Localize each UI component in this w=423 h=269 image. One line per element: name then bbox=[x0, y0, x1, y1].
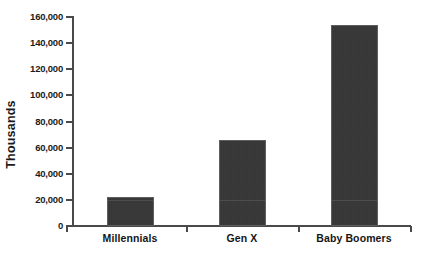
x-axis-label-millennials: Millennials bbox=[74, 232, 186, 244]
y-axis-tick-label-text: 80,000 bbox=[1, 116, 63, 127]
y-axis-tick-label-text: 160,000 bbox=[1, 11, 63, 22]
x-axis-tick bbox=[410, 226, 412, 232]
bar-baby-boomers bbox=[331, 25, 378, 226]
y-axis-tick bbox=[66, 94, 73, 96]
y-axis-tick-label: 80,000 bbox=[0, 116, 63, 128]
bar-millennials bbox=[107, 197, 154, 226]
y-axis-tick-label: 160,000 bbox=[0, 11, 63, 23]
y-axis-tick-label-text: 0 bbox=[1, 220, 63, 231]
x-axis-tick bbox=[66, 226, 68, 232]
y-axis-tick-label-text: 40,000 bbox=[1, 168, 63, 179]
y-axis-tick bbox=[66, 199, 73, 201]
y-axis-tick bbox=[66, 147, 73, 149]
y-axis-tick-label: 120,000 bbox=[0, 63, 63, 75]
y-axis-tick-label: 0 bbox=[0, 220, 63, 232]
y-axis-tick-label-text: 20,000 bbox=[1, 194, 63, 205]
y-axis-tick-label: 60,000 bbox=[0, 142, 63, 154]
x-axis-label-baby-boomers: Baby Boomers bbox=[298, 232, 410, 244]
y-axis-tick bbox=[66, 16, 73, 18]
y-axis-tick-label-text: 120,000 bbox=[1, 63, 63, 74]
y-axis-tick bbox=[66, 173, 73, 175]
y-axis-tick-label: 20,000 bbox=[0, 194, 63, 206]
y-axis-tick-label-text: 60,000 bbox=[1, 142, 63, 153]
y-axis-tick-label: 100,000 bbox=[0, 89, 63, 101]
y-axis-tick-label: 140,000 bbox=[0, 37, 63, 49]
x-axis-label-gen-x: Gen X bbox=[186, 232, 298, 244]
bar-chart: Thousands 020,00040,00060,00080,000100,0… bbox=[0, 0, 423, 269]
y-axis-tick-label: 40,000 bbox=[0, 168, 63, 180]
y-axis-tick bbox=[66, 121, 73, 123]
y-axis-tick bbox=[66, 68, 73, 70]
y-axis-tick-label-text: 100,000 bbox=[1, 89, 63, 100]
bar-gen-x bbox=[219, 140, 266, 226]
y-axis-tick bbox=[66, 42, 73, 44]
y-axis-tick-label-text: 140,000 bbox=[1, 37, 63, 48]
